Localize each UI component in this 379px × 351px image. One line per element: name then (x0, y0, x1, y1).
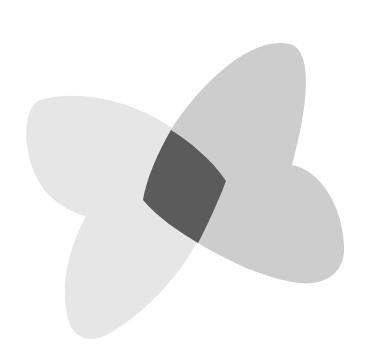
overlapping-shapes-diagram (0, 0, 379, 351)
diagram-canvas (0, 0, 379, 351)
